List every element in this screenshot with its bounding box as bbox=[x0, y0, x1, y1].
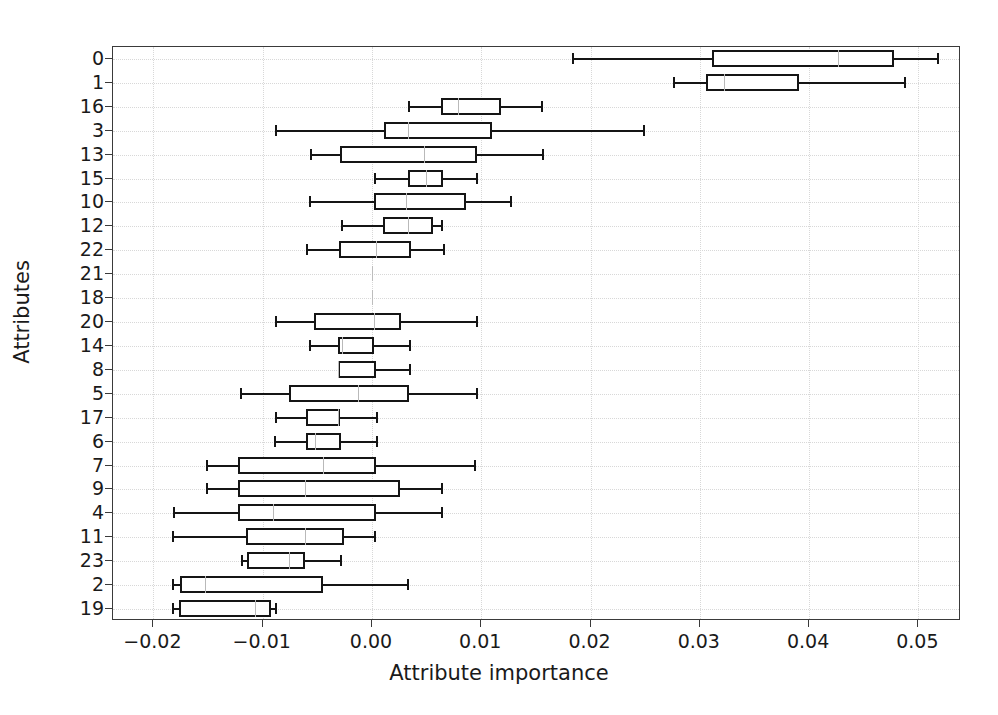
whisker-low bbox=[275, 417, 307, 419]
y-tick-label-7: 7 bbox=[92, 454, 104, 476]
y-tick-mark bbox=[105, 201, 112, 202]
y-tick-mark bbox=[105, 273, 112, 274]
whisker-high bbox=[501, 106, 541, 108]
median-line bbox=[305, 480, 306, 497]
whisker-low bbox=[374, 178, 408, 180]
median-line bbox=[724, 74, 725, 91]
y-tick-label-3: 3 bbox=[92, 119, 104, 141]
box-iqr bbox=[374, 193, 466, 210]
boxplot-figure: 01163131510122221182014851767941123219 −… bbox=[0, 0, 998, 715]
x-tick-label-4: 0.02 bbox=[568, 630, 610, 652]
cap-high bbox=[474, 460, 476, 471]
cap-low bbox=[172, 579, 174, 590]
median-line bbox=[458, 98, 459, 115]
median-line bbox=[255, 600, 256, 617]
y-tick-mark bbox=[105, 608, 112, 609]
y-tick-mark bbox=[105, 417, 112, 418]
y-tick-mark bbox=[105, 178, 112, 179]
box-iqr bbox=[441, 98, 501, 115]
y-tick-label-0: 0 bbox=[92, 47, 104, 69]
plot-area bbox=[112, 46, 960, 620]
box-degenerate bbox=[372, 290, 373, 305]
y-tick-mark bbox=[105, 488, 112, 489]
cap-low bbox=[341, 220, 343, 231]
cap-low bbox=[306, 244, 308, 255]
y-tick-label-19: 19 bbox=[80, 597, 104, 619]
box-degenerate bbox=[372, 266, 373, 281]
whisker-high bbox=[492, 130, 643, 132]
cap-high bbox=[441, 483, 443, 494]
whisker-low bbox=[673, 82, 707, 84]
whisker-high bbox=[411, 249, 443, 251]
cap-low bbox=[408, 101, 410, 112]
y-tick-label-14: 14 bbox=[80, 334, 104, 356]
x-tick-label-3: 0.01 bbox=[459, 630, 501, 652]
cap-high bbox=[476, 173, 478, 184]
gridline-horizontal bbox=[113, 346, 959, 347]
x-tick-mark bbox=[590, 620, 591, 627]
cap-high bbox=[275, 603, 277, 614]
x-tick-label-1: −0.01 bbox=[233, 630, 291, 652]
y-tick-label-17: 17 bbox=[80, 406, 104, 428]
whisker-high bbox=[376, 369, 409, 371]
y-tick-mark bbox=[105, 345, 112, 346]
y-tick-label-10: 10 bbox=[80, 190, 104, 212]
whisker-high bbox=[305, 560, 340, 562]
cap-high bbox=[443, 244, 445, 255]
whisker-low bbox=[309, 201, 375, 203]
y-tick-mark bbox=[105, 369, 112, 370]
cap-low bbox=[172, 603, 174, 614]
whisker-high bbox=[400, 488, 440, 490]
whisker-low bbox=[408, 106, 441, 108]
gridline-horizontal bbox=[113, 179, 959, 180]
median-line bbox=[273, 504, 274, 521]
x-tick-label-0: −0.02 bbox=[123, 630, 181, 652]
y-tick-mark bbox=[105, 297, 112, 298]
cap-low bbox=[309, 340, 311, 351]
median-line bbox=[342, 337, 343, 354]
whisker-low bbox=[275, 321, 314, 323]
whisker-high bbox=[376, 512, 440, 514]
x-tick-mark bbox=[480, 620, 481, 627]
x-tick-label-7: 0.05 bbox=[896, 630, 938, 652]
whisker-high bbox=[341, 441, 376, 443]
cap-low bbox=[673, 77, 675, 88]
y-tick-label-9: 9 bbox=[92, 477, 104, 499]
whisker-low bbox=[310, 154, 341, 156]
whisker-low bbox=[172, 536, 246, 538]
y-tick-mark bbox=[105, 58, 112, 59]
median-line bbox=[408, 122, 409, 139]
gridline-vertical bbox=[809, 47, 810, 619]
box-iqr bbox=[712, 50, 894, 67]
y-tick-label-20: 20 bbox=[80, 310, 104, 332]
x-tick-mark bbox=[262, 620, 263, 627]
y-tick-mark bbox=[105, 465, 112, 466]
y-tick-label-12: 12 bbox=[80, 214, 104, 236]
cap-high bbox=[340, 555, 342, 566]
cap-high bbox=[937, 53, 939, 64]
x-tick-mark bbox=[371, 620, 372, 627]
x-tick-label-2: 0.00 bbox=[350, 630, 392, 652]
x-axis-title: Attribute importance bbox=[0, 661, 998, 685]
whisker-high bbox=[799, 82, 904, 84]
gridline-horizontal bbox=[113, 298, 959, 299]
gridline-horizontal bbox=[113, 250, 959, 251]
x-tick-label-5: 0.03 bbox=[678, 630, 720, 652]
y-tick-mark bbox=[105, 584, 112, 585]
box-iqr bbox=[339, 241, 411, 258]
box-iqr bbox=[238, 457, 377, 474]
cap-low bbox=[374, 173, 376, 184]
cap-high bbox=[409, 340, 411, 351]
gridline-horizontal bbox=[113, 322, 959, 323]
whisker-low bbox=[572, 58, 712, 60]
median-line bbox=[323, 457, 324, 474]
gridline-vertical bbox=[591, 47, 592, 619]
cap-high bbox=[441, 220, 443, 231]
whisker-high bbox=[340, 417, 376, 419]
gridline-vertical bbox=[918, 47, 919, 619]
box-iqr bbox=[340, 146, 477, 163]
whisker-low bbox=[274, 441, 307, 443]
cap-low bbox=[240, 388, 242, 399]
y-tick-label-2: 2 bbox=[92, 573, 104, 595]
cap-low bbox=[310, 149, 312, 160]
